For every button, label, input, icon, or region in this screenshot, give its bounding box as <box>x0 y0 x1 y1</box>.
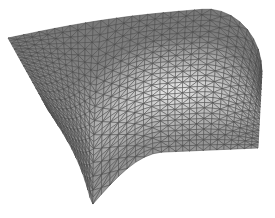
triangle-mesh-surface <box>0 0 275 218</box>
mesh-surface-figure <box>0 0 275 218</box>
mesh-triangle <box>136 157 145 162</box>
